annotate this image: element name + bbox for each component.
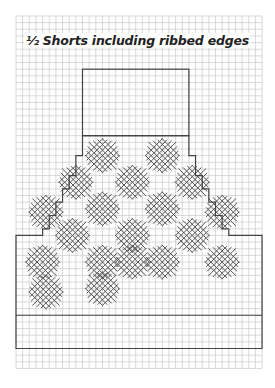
diamond-motif bbox=[29, 195, 63, 229]
knitting-chart-grid bbox=[0, 0, 275, 388]
chart-title-text: ½ Shorts including ribbed edges bbox=[24, 33, 251, 48]
diamond-motif bbox=[29, 275, 63, 309]
chart-title: ½ Shorts including ribbed edges bbox=[0, 33, 275, 48]
